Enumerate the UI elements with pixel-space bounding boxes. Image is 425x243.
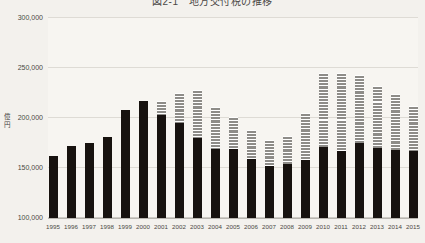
bar-segment-kofuzei[interactable] [211, 149, 220, 218]
bar-segment-kofuzei[interactable] [283, 164, 292, 218]
bar-column[interactable]: 2004 [210, 18, 220, 218]
bar-segment-kofuzei[interactable] [301, 160, 310, 218]
bar-segment-kofuzei[interactable] [157, 115, 166, 218]
bar-column[interactable]: 2010 [318, 18, 328, 218]
bar-column[interactable]: 2001 [156, 18, 166, 218]
bar-column[interactable]: 1995 [48, 18, 58, 218]
bar-segment-kofuzei[interactable] [139, 101, 148, 218]
bar-column[interactable]: 2006 [246, 18, 256, 218]
x-axis-tick-label: 2006 [244, 223, 258, 230]
y-axis-tick-label: 300,000 [18, 14, 43, 21]
bar-column[interactable]: 1996 [66, 18, 76, 218]
bar-column[interactable]: 2007 [264, 18, 274, 218]
bar-segment-rinzai[interactable] [373, 86, 382, 148]
x-axis-tick-label: 2012 [352, 223, 366, 230]
bar-segment-kofuzei[interactable] [355, 143, 364, 218]
x-axis-tick-label: 2004 [208, 223, 222, 230]
bar-segment-rinzai[interactable] [301, 113, 310, 160]
bar-segment-kofuzei[interactable] [85, 143, 94, 218]
bar-series-group: 1995199619971998199920002001200220032004… [48, 18, 418, 218]
y-axis-title-char-2: 円 [2, 121, 13, 129]
x-axis-tick-label: 2015 [406, 223, 420, 230]
bar-column[interactable]: 2009 [300, 18, 310, 218]
bar-segment-kofuzei[interactable] [229, 149, 238, 218]
x-axis-tick-label: 2007 [262, 223, 276, 230]
y-axis-tick-label: 100,000 [18, 214, 43, 221]
bar-segment-kofuzei[interactable] [319, 147, 328, 218]
bar-segment-kofuzei[interactable] [193, 138, 202, 218]
bar-column[interactable]: 2012 [354, 18, 364, 218]
x-axis-tick-label: 2013 [370, 223, 384, 230]
bar-column[interactable]: 2011 [336, 18, 346, 218]
bar-segment-kofuzei[interactable] [103, 137, 112, 218]
bar-column[interactable]: 2014 [390, 18, 400, 218]
bar-column[interactable]: 2003 [192, 18, 202, 218]
bar-column[interactable]: 2015 [408, 18, 418, 218]
y-axis-tick-label: 250,000 [18, 64, 43, 71]
bar-segment-kofuzei[interactable] [175, 123, 184, 218]
bar-segment-kofuzei[interactable] [409, 151, 418, 218]
x-axis-tick-label: 1998 [100, 223, 114, 230]
bar-column[interactable]: 2008 [282, 18, 292, 218]
bar-segment-rinzai[interactable] [211, 107, 220, 149]
x-axis-tick-label: 2008 [280, 223, 294, 230]
y-axis-title-char-1: 億 [2, 113, 13, 121]
bar-segment-kofuzei[interactable] [121, 110, 130, 218]
bar-segment-rinzai[interactable] [157, 101, 166, 115]
x-axis-tick-label: 2000 [136, 223, 150, 230]
bar-segment-rinzai[interactable] [229, 117, 238, 149]
bar-segment-rinzai[interactable] [247, 130, 256, 159]
x-axis-tick-label: 2003 [190, 223, 204, 230]
bar-segment-kofuzei[interactable] [67, 146, 76, 218]
bar-segment-rinzai[interactable] [355, 75, 364, 143]
bar-segment-rinzai[interactable] [409, 106, 418, 151]
bar-segment-rinzai[interactable] [175, 93, 184, 123]
bar-segment-kofuzei[interactable] [373, 148, 382, 218]
bar-segment-kofuzei[interactable] [49, 156, 58, 218]
y-axis-title: 億 円 [2, 113, 13, 128]
y-axis-tick-label: 150,000 [18, 164, 43, 171]
x-axis-tick-label: 2014 [388, 223, 402, 230]
bar-segment-kofuzei[interactable] [391, 150, 400, 218]
x-axis-tick-label: 1999 [118, 223, 132, 230]
x-axis-tick-label: 2001 [154, 223, 168, 230]
x-axis-tick-label: 2005 [226, 223, 240, 230]
x-axis-tick-label: 2009 [298, 223, 312, 230]
bar-column[interactable]: 2013 [372, 18, 382, 218]
bar-column[interactable]: 2000 [138, 18, 148, 218]
chart-figure: 図2-1 地方交付税の推移 交付税 臨時財政対策債 億 円 100,000150… [0, 0, 425, 243]
bar-column[interactable]: 2002 [174, 18, 184, 218]
x-axis-tick-label: 2010 [316, 223, 330, 230]
bar-column[interactable]: 2005 [228, 18, 238, 218]
chart-title: 図2-1 地方交付税の推移 [0, 0, 425, 7]
bar-segment-rinzai[interactable] [337, 73, 346, 151]
bar-segment-rinzai[interactable] [391, 94, 400, 150]
x-axis-tick-label: 1995 [46, 223, 60, 230]
bar-segment-rinzai[interactable] [283, 136, 292, 164]
bar-column[interactable]: 1998 [102, 18, 112, 218]
bar-segment-kofuzei[interactable] [265, 166, 274, 218]
y-axis-tick-label: 200,000 [18, 114, 43, 121]
bar-segment-rinzai[interactable] [193, 90, 202, 138]
bar-segment-rinzai[interactable] [319, 73, 328, 147]
x-axis-tick-label: 2002 [172, 223, 186, 230]
bar-segment-rinzai[interactable] [265, 140, 274, 166]
plot-area: 100,000150,000200,000250,000300,000 1995… [48, 18, 418, 218]
bar-column[interactable]: 1997 [84, 18, 94, 218]
x-axis-line [48, 218, 418, 219]
x-axis-tick-label: 2011 [334, 223, 347, 230]
bar-column[interactable]: 1999 [120, 18, 130, 218]
bar-segment-kofuzei[interactable] [337, 151, 346, 218]
bar-segment-kofuzei[interactable] [247, 159, 256, 218]
x-axis-tick-label: 1996 [64, 223, 78, 230]
x-axis-tick-label: 1997 [82, 223, 96, 230]
